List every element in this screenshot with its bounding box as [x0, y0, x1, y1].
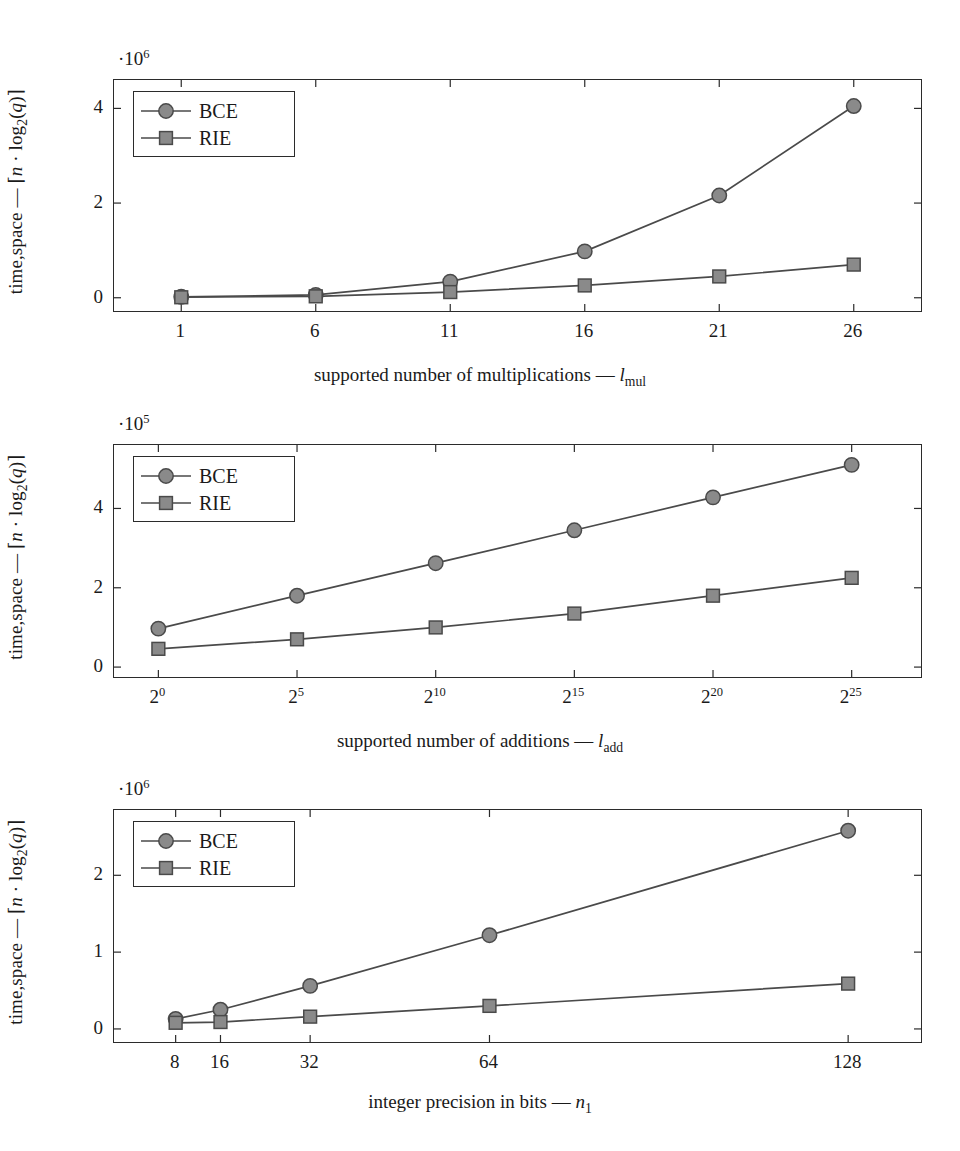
legend-label: RIE: [199, 493, 231, 513]
circle-marker-icon: [140, 466, 192, 486]
x-tick-label: 16: [210, 1051, 229, 1073]
y-tick-label: 4: [65, 496, 103, 518]
y-axis-exponent-additions: ·105: [118, 413, 150, 435]
y-axis-label-precision: time,space — ⌈n · log2(q)⌉: [4, 741, 27, 1103]
x-axis-label-additions: supported number of additions — ladd: [0, 730, 960, 752]
x-tick-label: 225: [840, 686, 862, 708]
y-axis-exponent-precision: ·106: [118, 778, 150, 800]
legend-label: BCE: [199, 466, 238, 486]
y-tick-label: 0: [65, 655, 103, 677]
y-tick-label: 1: [65, 940, 103, 962]
legend-item-bce[interactable]: BCE: [140, 827, 284, 854]
x-tick-label: 20: [149, 686, 165, 708]
x-tick-label: 25: [288, 686, 304, 708]
x-tick-label: 64: [479, 1051, 498, 1073]
chart-panel-precision: time,space — ⌈n · log2(q)⌉ ·106 012 8163…: [0, 0, 960, 400]
legend-precision[interactable]: BCERIE: [133, 821, 295, 887]
x-tick-label: 220: [701, 686, 723, 708]
x-tick-label: 128: [833, 1051, 862, 1073]
x-tick-label: 215: [562, 686, 584, 708]
legend-item-rie[interactable]: RIE: [140, 489, 284, 516]
figure-container: time,space — ⌈n · log2(q)⌉ ·106 024 1611…: [0, 0, 960, 1151]
y-tick-label: 0: [65, 1017, 103, 1039]
legend-additions[interactable]: BCERIE: [133, 456, 295, 522]
circle-marker-icon: [140, 831, 192, 851]
x-tick-label: 210: [424, 686, 446, 708]
x-tick-label: 32: [300, 1051, 319, 1073]
square-marker-icon: [140, 493, 192, 513]
x-tick-label: 8: [170, 1051, 180, 1073]
y-tick-label: 2: [65, 576, 103, 598]
legend-label: RIE: [199, 858, 231, 878]
y-axis-label-additions: time,space — ⌈n · log2(q)⌉: [4, 376, 27, 738]
x-axis-label-precision: integer precision in bits — n1: [0, 1091, 960, 1113]
legend-label: BCE: [199, 831, 238, 851]
square-marker-icon: [140, 858, 192, 878]
legend-item-rie[interactable]: RIE: [140, 854, 284, 881]
y-tick-label: 2: [65, 863, 103, 885]
legend-item-bce[interactable]: BCE: [140, 462, 284, 489]
